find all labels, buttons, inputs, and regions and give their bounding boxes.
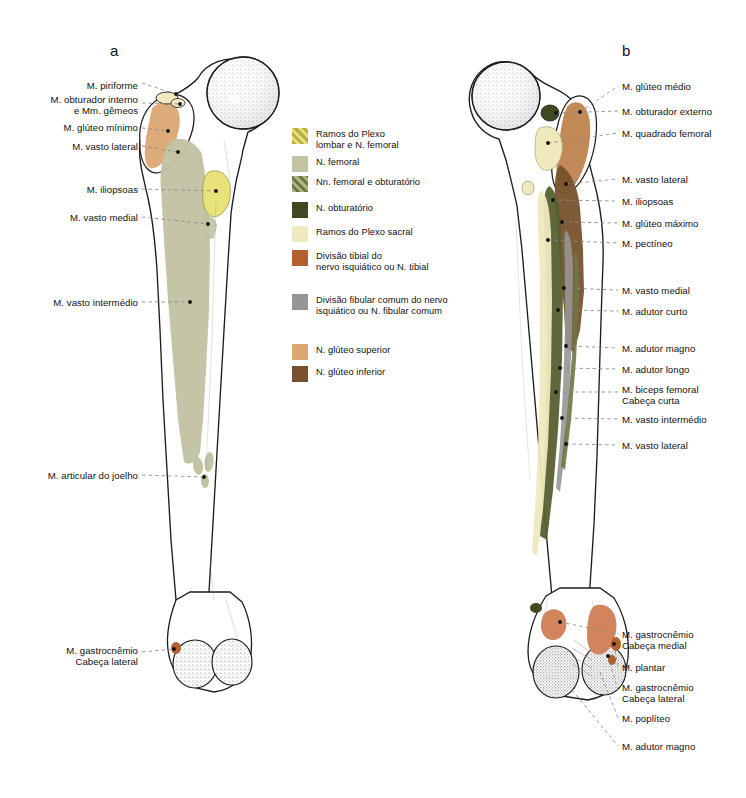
legend-item: Ramos do Plexo lombar e N. femoral: [292, 128, 399, 151]
muscle-label-a: M. vasto lateral: [38, 141, 138, 152]
fovea-capitis-a: [228, 95, 240, 103]
panel-letter-a: a: [110, 42, 119, 59]
panel-letter-b: b: [622, 42, 631, 59]
legend-swatch: [292, 344, 308, 360]
legend-item: Ramos do Plexo sacral: [292, 226, 413, 242]
legend-item: Divisão tibial do nervo isquiático ou N.…: [292, 250, 429, 273]
legend-label: Ramos do Plexo lombar e N. femoral: [316, 128, 399, 151]
region-obturator-internus-a: [171, 99, 185, 108]
legend-swatch: [292, 226, 308, 242]
femur-posterior: [469, 62, 628, 700]
muscle-label-a: M. obturador interno e Mm. gêmeos: [4, 94, 138, 117]
muscle-label-a: M. articular do joelho: [16, 470, 138, 481]
muscle-label-b: M. adutor curto: [622, 306, 746, 317]
muscle-label-b: M. vasto lateral: [622, 174, 746, 185]
lateral-condyle-a: [212, 639, 252, 685]
muscle-label-b: M. glúteo médio: [622, 81, 746, 92]
legend-label: N. obturatório: [316, 202, 373, 214]
muscle-label-a: M. vasto intermédio: [22, 297, 138, 308]
legend-label: N. glúteo superior: [316, 344, 390, 356]
muscle-label-b: M. vasto intermédio: [622, 414, 746, 425]
legend-label: Ramos do Plexo sacral: [316, 226, 413, 238]
legend-label: N. femoral: [316, 156, 359, 168]
muscle-label-a: M. piriforme: [28, 80, 138, 91]
legend-swatch: [292, 176, 308, 192]
legend-swatch: [292, 250, 308, 266]
legend-item: N. femoral: [292, 156, 359, 172]
legend-item: Divisão fibular comum do nervo isquiátic…: [292, 294, 448, 317]
muscle-label-b: M. pectíneo: [622, 238, 746, 249]
muscle-label-b: M. adutor magno: [622, 741, 746, 752]
muscle-label-a: M. iliopsoas: [52, 184, 138, 195]
muscle-label-a: M. glúteo mínimo: [24, 122, 138, 133]
femur-anterior: [140, 57, 279, 692]
muscle-label-b: M. vasto lateral: [622, 440, 746, 451]
legend-swatch: [292, 366, 308, 382]
muscle-label-b: M. gastrocnêmio Cabeça lateral: [622, 682, 746, 705]
legend-label: N. glúteo inferior: [316, 366, 385, 378]
muscle-label-b: M. obturador externo: [622, 106, 746, 117]
region-iliopsoas-b: [522, 181, 534, 195]
muscle-label-b: M. poplíteo: [622, 713, 746, 724]
muscle-label-b: M. quadrado femoral: [622, 128, 746, 139]
muscle-label-b: M. vasto medial: [622, 285, 746, 296]
legend-swatch: [292, 156, 308, 172]
legend-item: N. glúteo superior: [292, 344, 390, 360]
muscle-label-b: M. iliopsoas: [622, 196, 746, 207]
legend-label: Divisão tibial do nervo isquiático ou N.…: [316, 250, 429, 273]
legend-swatch: [292, 128, 308, 144]
muscle-label-b: M. plantar: [622, 662, 746, 673]
legend-swatch: [292, 202, 308, 218]
anatomical-plate: a b Ramos do Plexo lombar e N. femoralN.…: [0, 0, 746, 798]
muscle-label-b: M. adutor longo: [622, 364, 746, 375]
legend-item: N. glúteo inferior: [292, 366, 385, 382]
muscle-label-b: M. glúteo máximo: [622, 218, 746, 229]
legend-item: Nn. femoral e obturatório: [292, 176, 420, 192]
muscle-label-a: M. vasto medial: [38, 212, 138, 223]
legend-label: Nn. femoral e obturatório: [316, 176, 420, 188]
legend-swatch: [292, 294, 308, 310]
muscle-label-a: M. gastrocnêmio Cabeça lateral: [34, 645, 138, 668]
muscle-label-b: M. gastrocnêmio Cabeça medial: [622, 629, 746, 652]
muscle-label-b: M. adutor magno: [622, 343, 746, 354]
muscle-label-b: M. biceps femoral Cabeça curta: [622, 384, 746, 407]
legend-item: N. obturatório: [292, 202, 373, 218]
region-adductor-magnus-distal-b: [530, 603, 542, 613]
legend-label: Divisão fibular comum do nervo isquiátic…: [316, 294, 448, 317]
